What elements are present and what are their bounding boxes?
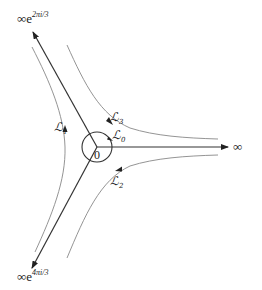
svg-text:ℒ2: ℒ2: [110, 174, 124, 190]
svg-text:ℒ3: ℒ3: [110, 110, 124, 126]
svg-text:ℒ1: ℒ1: [54, 120, 67, 136]
contour-diagram: 0 ∞ ∞e2πi/3 ∞e4πi/3 ℒ0 ℒ1 ℒ3 ℒ2: [0, 0, 262, 290]
infinity-lower-left-label: ∞e4πi/3: [17, 268, 49, 284]
infinity-upper-left-label: ∞e2πi/3: [17, 10, 49, 26]
svg-text:∞e4πi/3: ∞e4πi/3: [17, 268, 49, 284]
label-L3: ℒ3: [110, 110, 124, 126]
svg-text:ℒ0: ℒ0: [112, 128, 126, 144]
label-L0: ℒ0: [112, 128, 126, 144]
contour-L2: [67, 155, 218, 258]
label-L2: ℒ2: [110, 174, 124, 190]
label-L1: ℒ1: [54, 120, 67, 136]
origin-label: 0: [94, 148, 100, 162]
infinity-right-label: ∞: [233, 139, 242, 154]
contour-L1: [32, 47, 65, 252]
svg-text:∞e2πi/3: ∞e2πi/3: [17, 10, 49, 26]
L2-arrow-icon: [115, 167, 122, 172]
contour-L3: [67, 45, 218, 139]
